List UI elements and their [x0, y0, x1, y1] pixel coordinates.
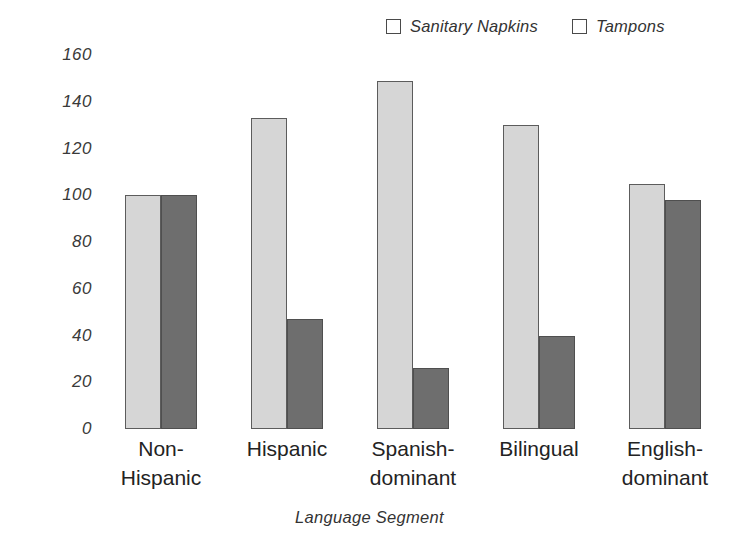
- y-axis-tick-20: 20: [72, 372, 92, 392]
- x-axis-title: Language Segment: [0, 508, 739, 527]
- bar[interactable]: [629, 184, 665, 429]
- x-axis-category-label: Hispanic: [224, 434, 350, 463]
- bar[interactable]: [287, 319, 323, 429]
- plot-area: [98, 55, 728, 429]
- legend-label-tampons: Tampons: [596, 17, 665, 36]
- x-axis-category-label: Spanish- dominant: [350, 434, 476, 492]
- bar[interactable]: [161, 195, 197, 429]
- y-axis-tick-160: 160: [62, 45, 92, 65]
- y-axis-tick-60: 60: [72, 279, 92, 299]
- bar[interactable]: [503, 125, 539, 429]
- bar[interactable]: [251, 118, 287, 429]
- y-axis-tick-80: 80: [72, 232, 92, 252]
- y-axis-tick-140: 140: [62, 92, 92, 112]
- legend-swatch-icon-tampons: [572, 19, 587, 34]
- bars-layer: [98, 55, 728, 429]
- bar[interactable]: [377, 81, 413, 429]
- chart-legend: Sanitary Napkins Tampons: [386, 17, 665, 36]
- bar-group: [251, 55, 323, 429]
- y-axis-tick-100: 100: [62, 185, 92, 205]
- y-axis-tick-0: 0: [82, 419, 92, 439]
- legend-label-sanitary-napkins: Sanitary Napkins: [410, 17, 538, 36]
- x-axis-category-label: Non- Hispanic: [98, 434, 224, 492]
- legend-entry-sanitary-napkins: Sanitary Napkins: [386, 17, 538, 36]
- y-axis-tick-labels: 020406080100120140160: [30, 48, 92, 432]
- bar[interactable]: [413, 368, 449, 429]
- x-axis-category-label: Bilingual: [476, 434, 602, 463]
- bar[interactable]: [125, 195, 161, 429]
- bar-group: [377, 55, 449, 429]
- legend-swatch-icon-sanitary-napkins: [386, 19, 401, 34]
- legend-entry-tampons: Tampons: [572, 17, 665, 36]
- x-axis-category-labels: Non- HispanicHispanicSpanish- dominantBi…: [98, 434, 728, 504]
- x-axis-category-label: English- dominant: [602, 434, 728, 492]
- bar-group: [503, 55, 575, 429]
- bar-group: [629, 55, 701, 429]
- y-axis-tick-40: 40: [72, 326, 92, 346]
- bar[interactable]: [665, 200, 701, 429]
- bar-chart: Sanitary Napkins Tampons 020406080100120…: [0, 0, 739, 554]
- bar[interactable]: [539, 336, 575, 430]
- y-axis-tick-120: 120: [62, 139, 92, 159]
- bar-group: [125, 55, 197, 429]
